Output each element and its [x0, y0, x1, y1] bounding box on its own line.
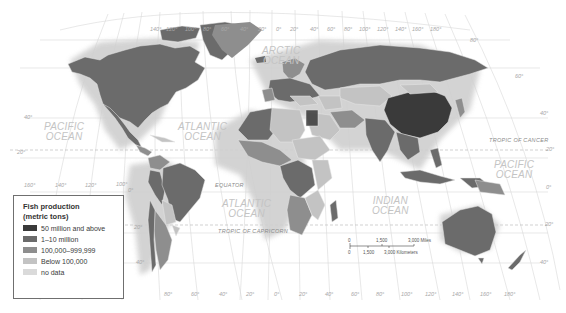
legend-swatch: [23, 258, 37, 264]
legend-title: Fish production (metric tons): [23, 202, 123, 221]
ocean-label-atlantic-south: ATLANTIC OCEAN: [222, 199, 271, 219]
equator-label: EQUATOR: [215, 182, 244, 188]
legend-item: Below 100,000: [23, 257, 123, 265]
tropic-of-capricorn-label: TROPIC OF CAPRICORN: [218, 228, 288, 234]
legend-swatch: [23, 236, 37, 242]
map-legend: Fish production (metric tons) 50 million…: [13, 195, 124, 299]
south-america: [148, 155, 205, 272]
ocean-label-arctic: ARCTIC OCEAN: [262, 46, 300, 66]
legend-item: 50 million and above: [23, 224, 123, 232]
legend-swatch: [23, 225, 37, 231]
legend-item: 100,000–999,999: [23, 246, 123, 254]
ocean-label-indian: INDIAN OCEAN: [372, 196, 409, 216]
scale-bar: 0 1,500 3,000 Miles 0 1,500 3,000 Kilome…: [348, 238, 468, 262]
ocean-label-pacific-west: PACIFIC OCEAN: [44, 122, 84, 142]
legend-swatch: [23, 269, 37, 275]
legend-swatch: [23, 247, 37, 253]
tropic-of-cancer-label: TROPIC OF CANCER: [489, 137, 548, 143]
ocean-label-pacific-east: PACIFIC OCEAN: [494, 160, 534, 180]
legend-item: no data: [23, 268, 123, 276]
legend-item: 1–10 million: [23, 235, 123, 243]
ocean-label-atlantic-north: ATLANTIC OCEAN: [178, 122, 227, 142]
